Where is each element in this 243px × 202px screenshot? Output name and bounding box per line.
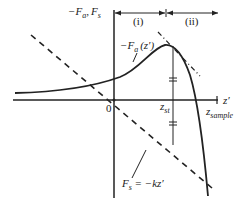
arrow-head <box>159 11 165 16</box>
curve-label-leader <box>133 53 137 62</box>
arrow-head <box>212 11 218 16</box>
spring-label: Fs = −kz′ <box>121 177 164 192</box>
origin-dot <box>113 99 116 102</box>
region-i-label: (i) <box>133 15 144 28</box>
x-axis-label: z′ <box>222 94 230 106</box>
zsample-label: zsample <box>205 105 233 120</box>
curve-label: −Fa(z′) <box>120 39 155 54</box>
spring-force-line <box>31 35 212 188</box>
arrow-head <box>167 11 173 16</box>
zst-label: zst <box>159 100 170 115</box>
force-diagram: −Fa,Fs (i) (ii) −Fa(z′) z′ 0 zst zsample… <box>0 0 243 202</box>
y-axis-label: −Fa,Fs <box>68 5 101 20</box>
region-ii-label: (ii) <box>185 15 199 28</box>
attractive-force-curve <box>15 45 208 196</box>
arrow-head <box>115 11 121 16</box>
spring-label-leader <box>132 150 146 178</box>
origin-label: 0 <box>106 102 112 114</box>
